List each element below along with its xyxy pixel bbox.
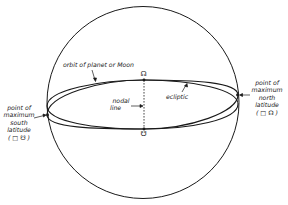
north-label-line-3: north — [246, 94, 288, 101]
ascending-node-icon: ☊ — [141, 71, 147, 78]
nodal-arrowhead — [140, 105, 143, 108]
orbit-arrowhead — [94, 78, 97, 82]
diagram-canvas — [0, 0, 288, 205]
ecliptic-ellipse — [47, 80, 238, 129]
max-north-latitude-label: point of maximum north latitude ( □ ☊ ) — [246, 79, 288, 116]
north-label-line-5: ( □ ☊ ) — [246, 109, 288, 116]
north-arrowhead — [240, 94, 243, 97]
max-north-latitude-dot — [236, 94, 239, 97]
south-label-line-3: south — [1, 119, 37, 126]
south-label-line-2: maximum — [1, 111, 37, 118]
nodal-line-label-1: nodal — [110, 97, 132, 104]
south-arrowhead — [43, 114, 46, 117]
north-label-line-4: latitude — [246, 101, 288, 108]
nodal-line-label: nodal line — [110, 97, 132, 112]
south-label-line-5: ( □ ☋ ) — [1, 134, 37, 141]
nodal-line-label-2: line — [110, 104, 132, 111]
south-label-line-4: latitude — [1, 126, 37, 133]
celestial-sphere — [47, 7, 239, 199]
south-label-line-1: point of — [1, 104, 37, 111]
descending-node-icon: ☋ — [141, 131, 147, 138]
ascending-node-dot — [143, 79, 146, 82]
max-south-latitude-label: point of maximum south latitude ( □ ☋ ) — [1, 104, 37, 141]
ecliptic-arrowhead — [185, 84, 188, 88]
orbit-label: orbit of planet or Moon — [63, 61, 134, 68]
north-label-line-2: maximum — [246, 86, 288, 93]
ecliptic-label: ecliptic — [166, 93, 188, 100]
orbit-diagram: orbit of planet or Moon ecliptic nodal l… — [0, 0, 288, 205]
north-label-line-1: point of — [246, 79, 288, 86]
